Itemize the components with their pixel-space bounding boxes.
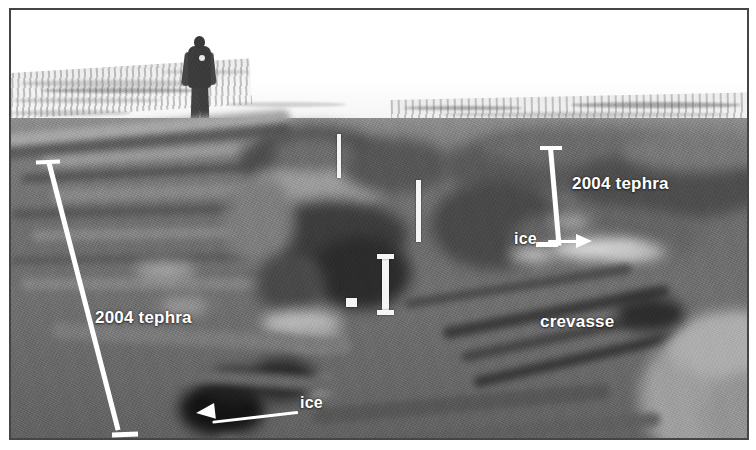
slope-shadow [255,254,325,314]
pit-dark-recess [311,236,411,310]
person-head [194,36,205,48]
measuring-pole [416,180,421,242]
scalebar-tephra-right[interactable] [538,146,568,254]
measuring-pole-foot [377,310,394,315]
snow-streak [441,112,731,117]
snow-streak [403,106,523,110]
pit-highlight [273,136,353,170]
figure-canvas: 2004 tephra ice 2004 tephra ice crevasse [0,0,756,450]
label-2004-tephra-right[interactable]: 2004 tephra [572,174,669,194]
snow-streak [11,110,131,116]
snow-streak [571,102,741,108]
label-crevasse[interactable]: crevasse [540,312,614,332]
foreground-notch [615,296,685,332]
scalebar-shaft [46,160,120,430]
scalebar-cap-bottom [536,242,558,247]
ice-lens [607,244,667,260]
snow-streak [226,102,346,107]
person-badge [199,55,205,61]
measuring-pole [382,258,389,314]
measuring-pole [337,134,341,178]
snow-streak [41,88,201,93]
marker-block [346,298,357,307]
pit-wall-right [341,138,451,194]
slope-face [225,176,295,266]
person-torso [188,46,211,88]
label-ice-right[interactable]: ice [514,230,537,248]
scalebar-cap-bottom [112,432,138,438]
snow-streak [11,98,161,103]
label-2004-tephra-left[interactable]: 2004 tephra [95,308,192,328]
scalebar-shaft [548,148,562,246]
bright-patch [135,262,195,280]
label-ice-left[interactable]: ice [300,394,323,412]
measuring-pole-head [377,254,394,259]
scalebar-tephra-left[interactable] [30,155,140,445]
